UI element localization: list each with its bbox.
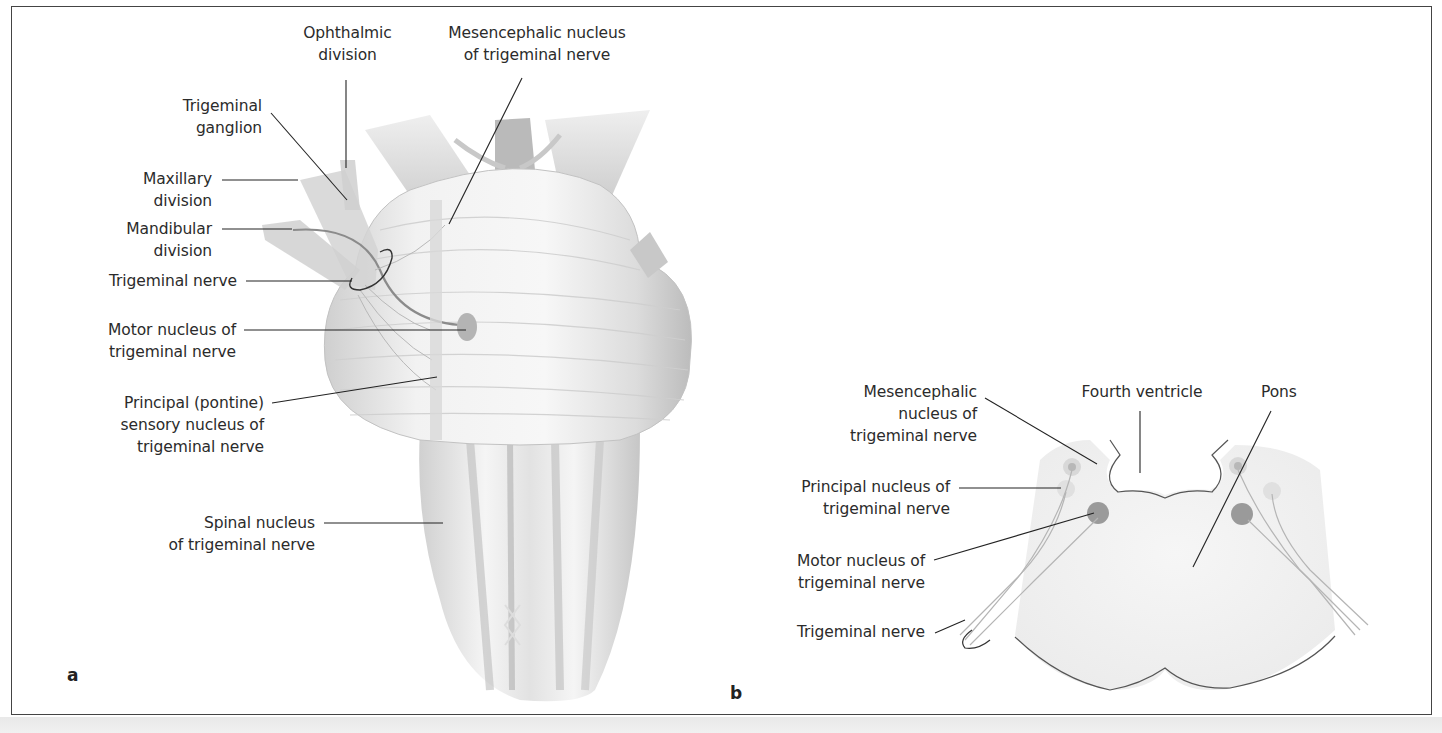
pons-cross-section xyxy=(960,440,1368,690)
label-spinal-nucleus: Spinal nucleus of trigeminal nerve xyxy=(120,512,315,556)
label-principal-nucleus-b: Principal nucleus of trigeminal nerve xyxy=(780,476,950,520)
label-motor-nucleus-b: Motor nucleus of trigeminal nerve xyxy=(780,550,925,594)
label-fourth-ventricle: Fourth ventricle xyxy=(1072,381,1212,403)
label-trigeminal-nerve-a: Trigeminal nerve xyxy=(80,270,237,292)
brainstem-drawing xyxy=(262,110,691,701)
label-mesencephalic-nucleus-a: Mesencephalic nucleus of trigeminal nerv… xyxy=(437,22,637,66)
label-trigeminal-nerve-b: Trigeminal nerve xyxy=(780,621,925,643)
label-maxillary-division: Maxillary division xyxy=(100,168,212,212)
label-ophthalmic-division: Ophthalmic division xyxy=(300,22,395,66)
label-pons: Pons xyxy=(1261,381,1297,403)
label-principal-sensory-nucleus-a: Principal (pontine) sensory nucleus of t… xyxy=(80,392,264,458)
panel-letter-b: b xyxy=(730,683,742,703)
label-trigeminal-ganglion: Trigeminal ganglion xyxy=(150,95,262,139)
label-motor-nucleus-a: Motor nucleus of trigeminal nerve xyxy=(80,319,236,363)
panel-letter-a: a xyxy=(67,665,78,685)
label-mandibular-division: Mandibular division xyxy=(90,218,212,262)
label-mesencephalic-nucleus-b: Mesencephalic nucleus of trigeminal nerv… xyxy=(820,381,977,447)
